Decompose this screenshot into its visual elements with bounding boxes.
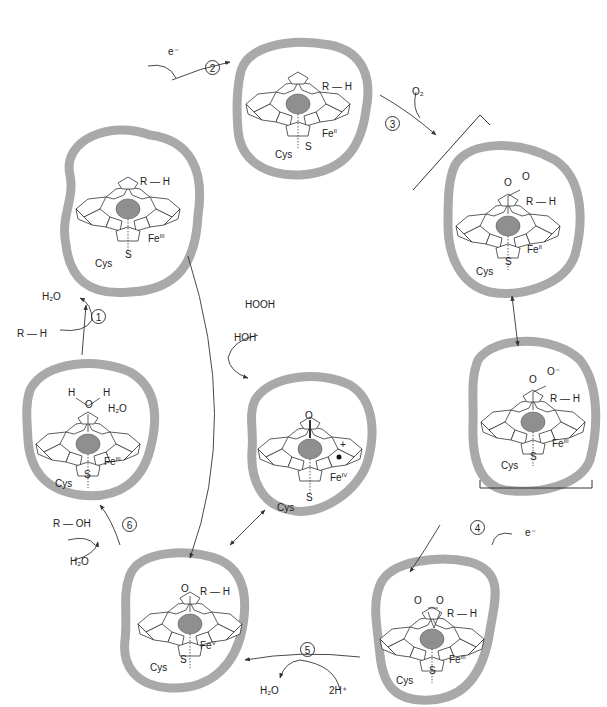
substrate-label-A: R — H bbox=[140, 177, 170, 187]
sulfur-label-D: S bbox=[530, 452, 537, 462]
oxidation-state: III bbox=[116, 456, 121, 462]
step-4-badge: 4 bbox=[470, 520, 485, 535]
iron-label-C: FeII bbox=[527, 244, 542, 255]
oxygen2-label-C: O bbox=[522, 172, 530, 182]
pocket-state-D bbox=[473, 341, 596, 491]
step3-reactant: O₂ bbox=[412, 87, 424, 97]
oxidation-state: III bbox=[461, 654, 466, 660]
diagram-canvas bbox=[0, 0, 607, 707]
substrate-label-C: R — H bbox=[526, 197, 556, 207]
cys-label-H: Cys bbox=[55, 479, 72, 489]
step6-reactant: H₂O bbox=[70, 557, 89, 567]
oxygen-label-G: O bbox=[305, 411, 313, 421]
pocket-state-E bbox=[376, 559, 496, 700]
cys-label-E: Cys bbox=[396, 676, 413, 686]
fe-text: Fe bbox=[330, 472, 342, 483]
hydrogen2-label-H: H bbox=[103, 388, 110, 398]
fe-text: Fe bbox=[552, 438, 564, 449]
iron-label-H: FeIII bbox=[104, 456, 121, 467]
water-label-H: H₂O bbox=[108, 404, 127, 414]
sulfur-label-H: S bbox=[84, 470, 91, 480]
shunt-reactant: HOOH bbox=[245, 300, 275, 310]
fe-text: Fe bbox=[200, 640, 212, 651]
oxygen-label-F: O bbox=[181, 584, 189, 594]
step-6-badge: 6 bbox=[122, 517, 137, 532]
oxygen2-label-E: O bbox=[436, 596, 444, 606]
cys-label-C: Cys bbox=[476, 267, 493, 277]
radical-dot bbox=[337, 455, 342, 460]
oxygen1-label-D: O bbox=[529, 375, 537, 385]
substrate-label-E: R — H bbox=[447, 609, 477, 619]
shunt-product: HOH bbox=[234, 333, 256, 343]
step-3-badge: 3 bbox=[385, 116, 400, 131]
oxygen1-label-C: O bbox=[504, 178, 512, 188]
cys-label-D: Cys bbox=[501, 461, 518, 471]
iron-label-B: FeII bbox=[322, 128, 337, 139]
substrate-label-B: R — H bbox=[322, 82, 352, 92]
fe-text: Fe bbox=[322, 128, 334, 139]
cys-label-F: Cys bbox=[150, 663, 167, 673]
sulfur-label-G: S bbox=[306, 493, 313, 503]
step2-reactant: e⁻ bbox=[168, 47, 179, 57]
fe-text: Fe bbox=[104, 456, 116, 467]
oxidation-state: III bbox=[160, 233, 165, 239]
iron-label-G: FeIV bbox=[330, 472, 347, 483]
fe-text: Fe bbox=[148, 233, 160, 244]
pocket-state-A bbox=[65, 130, 200, 293]
sulfur-label-C: S bbox=[505, 257, 512, 267]
step1-reactant: R — H bbox=[17, 329, 47, 339]
step6-product: R — OH bbox=[53, 519, 91, 529]
iron-label-F: FeV bbox=[200, 640, 216, 651]
oxidation-state: V bbox=[212, 640, 216, 646]
oxidation-state: II bbox=[539, 244, 542, 250]
cys-label-A: Cys bbox=[95, 259, 112, 269]
iron-label-E: FeIII bbox=[449, 654, 466, 665]
fe-text: Fe bbox=[449, 654, 461, 665]
oxidation-state: III bbox=[564, 438, 569, 444]
p450-cycle-diagram: R — H FeIII S Cys R — H FeII S Cys O O R… bbox=[0, 0, 607, 707]
pocket-state-C bbox=[448, 146, 580, 294]
pocket-state-F bbox=[125, 553, 245, 688]
hydrogen1-label-H: H bbox=[68, 388, 75, 398]
fe-text: Fe bbox=[527, 244, 539, 255]
iron-label-A: FeIII bbox=[148, 233, 165, 244]
oxidation-state: II bbox=[334, 128, 337, 134]
oxygen1-label-E: O bbox=[414, 596, 422, 606]
iron-label-D: FeIII bbox=[552, 438, 569, 449]
step4-reactant: e⁻ bbox=[525, 528, 536, 538]
sulfur-label-F: S bbox=[180, 655, 187, 665]
step1-product: H₂O bbox=[42, 292, 61, 302]
substrate-label-F: R — H bbox=[200, 587, 230, 597]
step5-reactant: 2H⁺ bbox=[329, 686, 347, 696]
sulfur-label-B: S bbox=[305, 142, 312, 152]
oxidation-state: IV bbox=[342, 472, 348, 478]
oxygen2-label-D: O⁻ bbox=[547, 367, 560, 377]
step5-product: H₂O bbox=[260, 686, 279, 696]
cys-label-B: Cys bbox=[275, 150, 292, 160]
sulfur-label-E: S bbox=[429, 666, 436, 676]
radical-cation-plus: + bbox=[340, 440, 346, 450]
pocket-state-B bbox=[237, 43, 368, 176]
oxygen-label-H: O bbox=[85, 400, 93, 410]
step-5-badge: 5 bbox=[300, 642, 315, 657]
substrate-label-D: R — H bbox=[550, 394, 580, 404]
cys-label-G: Cys bbox=[277, 503, 294, 513]
step-2-badge: 2 bbox=[205, 60, 220, 75]
sulfur-label-A: S bbox=[125, 250, 132, 260]
step-1-badge: 1 bbox=[91, 309, 106, 324]
